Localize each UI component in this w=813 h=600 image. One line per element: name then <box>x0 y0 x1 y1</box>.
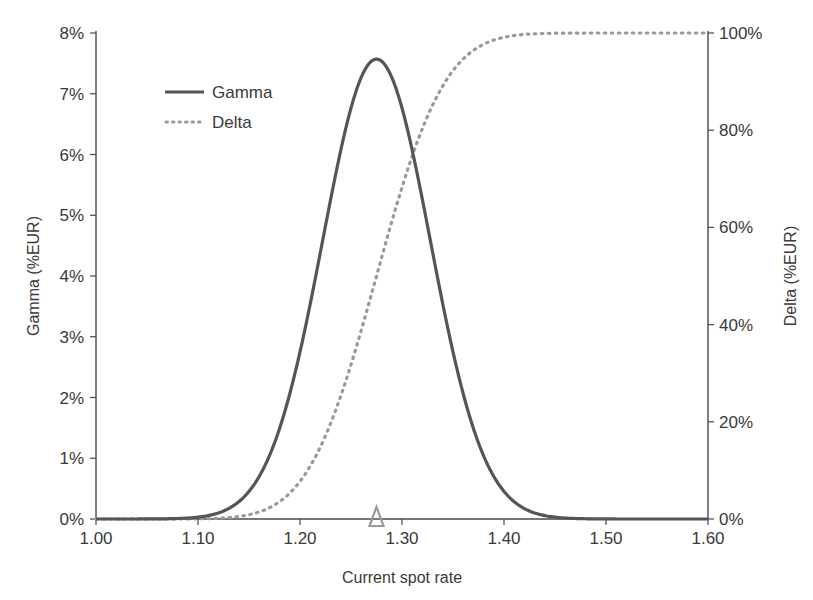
y2-tick-label: 60% <box>719 218 753 237</box>
y-tick-label: 4% <box>59 267 84 286</box>
right-y-axis-ticks: 0%20%40%60%80%100% <box>708 24 762 529</box>
y-tick-label: 0% <box>59 510 84 529</box>
y-tick-label: 6% <box>59 146 84 165</box>
y-tick-label: 8% <box>59 24 84 43</box>
left-y-axis-title: Gamma (%EUR) <box>25 216 42 336</box>
legend: Gamma Delta <box>165 83 273 132</box>
left-y-axis-ticks: 0%1%2%3%4%5%6%7%8% <box>59 24 96 529</box>
legend-delta-label: Delta <box>212 113 252 132</box>
x-tick-label: 1.40 <box>487 529 520 548</box>
y2-tick-label: 0% <box>719 510 744 529</box>
x-axis-title: Current spot rate <box>342 569 462 586</box>
y-tick-label: 2% <box>59 389 84 408</box>
x-tick-label: 1.00 <box>79 529 112 548</box>
y-tick-label: 1% <box>59 449 84 468</box>
y2-tick-label: 40% <box>719 316 753 335</box>
x-tick-label: 1.30 <box>385 529 418 548</box>
x-tick-label: 1.60 <box>691 529 724 548</box>
y-tick-label: 7% <box>59 85 84 104</box>
x-axis-ticks: 1.001.101.201.301.401.501.60 <box>79 519 724 548</box>
x-tick-label: 1.10 <box>181 529 214 548</box>
right-y-axis-title: Delta (%EUR) <box>782 226 799 326</box>
y2-tick-label: 100% <box>719 24 762 43</box>
x-tick-label: 1.20 <box>283 529 316 548</box>
current-spot-triangle-icon <box>370 507 384 526</box>
legend-gamma-label: Gamma <box>212 83 273 102</box>
gamma-delta-chart: 1.001.101.201.301.401.501.60 0%1%2%3%4%5… <box>0 0 813 600</box>
y2-tick-label: 80% <box>719 121 753 140</box>
y2-tick-label: 20% <box>719 413 753 432</box>
x-tick-label: 1.50 <box>589 529 622 548</box>
y-tick-label: 5% <box>59 206 84 225</box>
y-tick-label: 3% <box>59 328 84 347</box>
gamma-line <box>96 59 708 519</box>
